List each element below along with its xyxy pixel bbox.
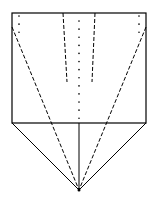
dashed-line xyxy=(92,13,95,82)
dashed-line xyxy=(12,27,79,190)
solid-line xyxy=(12,123,79,190)
fold-diagram xyxy=(0,0,155,199)
dashed-line xyxy=(63,13,67,82)
solid-fold-lines xyxy=(12,123,146,190)
solid-line xyxy=(79,123,146,190)
apex-dot xyxy=(78,189,81,192)
dashed-line xyxy=(79,27,146,190)
dotted-fold-lines xyxy=(19,16,139,120)
apex-point xyxy=(78,189,81,192)
